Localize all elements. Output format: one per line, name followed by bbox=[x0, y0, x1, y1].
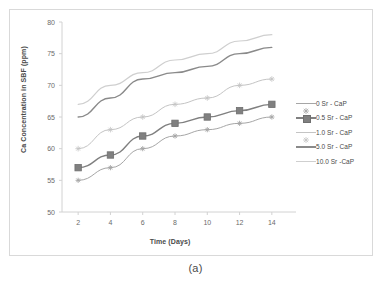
data-point-marker bbox=[75, 164, 81, 170]
legend-swatch bbox=[296, 142, 316, 152]
x-tick-label: 2 bbox=[76, 219, 80, 226]
x-tick-label: 4 bbox=[108, 219, 112, 226]
legend-square-marker bbox=[303, 115, 311, 123]
legend-label: 5.0 Sr - CaP bbox=[316, 143, 352, 150]
data-point-marker bbox=[269, 76, 275, 82]
legend-item: 10.0 Sr -CaP bbox=[296, 154, 388, 169]
x-tick-label: 6 bbox=[141, 219, 145, 226]
data-point-marker bbox=[140, 133, 146, 139]
legend-label: 0.5 Sr - CaP bbox=[316, 114, 352, 121]
y-tick-label: 50 bbox=[47, 209, 55, 216]
x-tick-label: 8 bbox=[173, 219, 177, 226]
legend-line bbox=[296, 146, 316, 148]
legend-line bbox=[296, 161, 316, 162]
legend-label: 0 Sr - CaP bbox=[316, 100, 347, 107]
data-point-marker bbox=[269, 101, 275, 107]
data-point-marker bbox=[204, 95, 210, 101]
data-point-marker bbox=[237, 121, 242, 126]
data-point-marker bbox=[172, 120, 178, 126]
series-2 bbox=[75, 76, 274, 151]
legend-swatch bbox=[296, 127, 316, 137]
legend-label: 1.0 Sr - CaP bbox=[316, 129, 352, 136]
y-axis-title: Ca Concentration in SBF (ppm) bbox=[20, 25, 27, 175]
y-tick-label: 75 bbox=[47, 50, 55, 57]
data-point-marker bbox=[108, 165, 113, 170]
x-tick-label: 14 bbox=[268, 219, 276, 226]
legend-swatch bbox=[296, 113, 316, 123]
legend-label: 10.0 Sr -CaP bbox=[316, 158, 354, 165]
data-point-marker bbox=[75, 146, 81, 152]
data-point-marker bbox=[172, 102, 178, 108]
data-point-marker bbox=[204, 114, 210, 120]
legend-item: 1.0 Sr - CaP bbox=[296, 125, 388, 140]
legend-item: 0 Sr - CaP bbox=[296, 96, 388, 111]
legend-star-marker bbox=[303, 100, 309, 106]
legend-item: 0.5 Sr - CaP bbox=[296, 111, 388, 126]
data-point-marker bbox=[140, 114, 146, 120]
series-4 bbox=[78, 35, 272, 105]
data-point-marker bbox=[205, 127, 210, 132]
legend-star-marker bbox=[303, 129, 309, 135]
data-point-marker bbox=[236, 107, 242, 113]
y-tick-label: 80 bbox=[47, 19, 55, 26]
data-point-marker bbox=[76, 178, 81, 183]
y-tick-label: 55 bbox=[47, 177, 55, 184]
y-tick-label: 60 bbox=[47, 145, 55, 152]
x-tick-label: 12 bbox=[236, 219, 244, 226]
data-point-marker bbox=[107, 152, 113, 158]
data-point-marker bbox=[172, 133, 177, 138]
data-point-marker bbox=[108, 127, 114, 133]
x-tick-label: 10 bbox=[203, 219, 211, 226]
legend-swatch bbox=[296, 98, 316, 108]
data-point-marker bbox=[140, 146, 145, 151]
y-tick-label: 65 bbox=[47, 114, 55, 121]
figure-caption: (a) bbox=[0, 262, 391, 274]
legend-item: 5.0 Sr - CaP bbox=[296, 140, 388, 155]
data-point-marker bbox=[237, 83, 243, 89]
series-line bbox=[78, 35, 272, 105]
y-tick-label: 70 bbox=[47, 82, 55, 89]
chart-legend: 0 Sr - CaP0.5 Sr - CaP1.0 Sr - CaP5.0 Sr… bbox=[296, 96, 388, 169]
figure-container: 505560657075802468101214 Ca Concentratio… bbox=[0, 0, 391, 296]
x-axis-title: Time (Days) bbox=[60, 238, 280, 245]
data-point-marker bbox=[269, 114, 274, 119]
legend-swatch bbox=[296, 156, 316, 166]
